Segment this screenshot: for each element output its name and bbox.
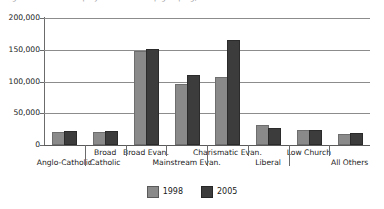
y-tick-mark xyxy=(40,145,44,146)
y-axis-tick-label: 50,000 xyxy=(2,109,40,117)
y-axis-tick-label: 100,000 xyxy=(2,78,40,86)
category-separator-tick xyxy=(207,146,208,156)
y-axis-tick-label: 200,000 xyxy=(2,14,40,22)
y-axis-tick-label: 0 xyxy=(2,141,40,149)
bar-2005[interactable] xyxy=(105,131,118,145)
legend-swatch-icon xyxy=(201,186,213,198)
bar-2005[interactable] xyxy=(268,128,281,145)
legend-item[interactable]: 2005 xyxy=(201,186,237,198)
y-tick-mark xyxy=(40,50,44,51)
legend-label: 2005 xyxy=(217,187,237,197)
bar-group xyxy=(215,18,239,145)
x-axis-category-label: Anglo-Catholic xyxy=(37,158,92,167)
legend-item[interactable]: 1998 xyxy=(147,186,183,198)
bar-group xyxy=(134,18,158,145)
chart-legend: 19982005 xyxy=(0,186,384,198)
bar-chart: 050,000100,000150,000200,000 19982005 An… xyxy=(0,0,384,209)
x-axis-category-label: Broad Evan. xyxy=(123,148,169,157)
y-tick-mark xyxy=(40,82,44,83)
bar-group xyxy=(52,18,76,145)
bar-2005[interactable] xyxy=(64,131,77,145)
legend-swatch-icon xyxy=(147,186,159,198)
x-axis-category-label: Low Church xyxy=(287,148,331,157)
bar-group xyxy=(338,18,362,145)
y-axis-labels: 050,000100,000150,000200,000 xyxy=(0,0,40,209)
legend-label: 1998 xyxy=(163,187,183,197)
bar-2005[interactable] xyxy=(227,40,240,145)
x-axis-category-label: All Others xyxy=(331,158,368,167)
category-separator-tick xyxy=(289,146,290,156)
bar-group xyxy=(175,18,199,145)
bar-group xyxy=(93,18,117,145)
category-separator-tick xyxy=(126,146,127,156)
bar-2005[interactable] xyxy=(146,49,159,145)
bar-2005[interactable] xyxy=(187,75,200,145)
y-tick-mark xyxy=(40,18,44,19)
bar-group xyxy=(256,18,280,145)
bar-group xyxy=(297,18,321,145)
x-axis-category-label: Mainstream Evan. xyxy=(152,158,220,167)
category-separator-tick xyxy=(85,146,86,156)
category-separator-tick xyxy=(166,146,167,156)
x-axis-category-label: Broad xyxy=(94,148,116,157)
plot-area xyxy=(44,18,370,145)
y-tick-mark xyxy=(40,113,44,114)
bar-2005[interactable] xyxy=(309,130,322,145)
category-separator-tick xyxy=(248,146,249,156)
bar-2005[interactable] xyxy=(350,133,363,145)
x-axis-category-label: Catholic xyxy=(90,158,121,167)
x-axis-category-label: Liberal xyxy=(255,158,281,167)
y-axis-tick-label: 150,000 xyxy=(2,46,40,54)
category-separator-tick xyxy=(329,146,330,156)
x-axis-category-label: Charismatic Evan. xyxy=(193,148,262,157)
